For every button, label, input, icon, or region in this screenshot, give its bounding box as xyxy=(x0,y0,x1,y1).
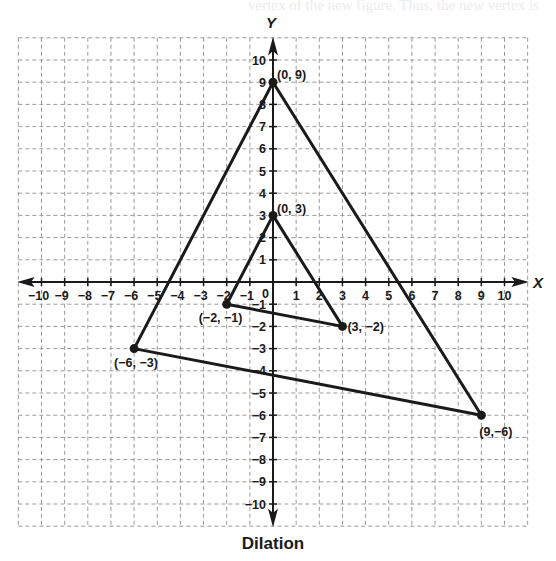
x-tick-label: 5 xyxy=(385,289,392,303)
x-tick-label: 3 xyxy=(339,289,346,303)
x-tick-label: 9 xyxy=(478,289,485,303)
y-tick-label: 5 xyxy=(259,165,266,179)
y-tick-label: −9 xyxy=(252,475,266,489)
x-tick-label: −3 xyxy=(193,289,207,303)
origin-label: 0 xyxy=(262,287,269,301)
y-tick-label: 4 xyxy=(259,187,266,201)
y-tick-label: −3 xyxy=(252,342,266,356)
vertex-label: (−6, −3) xyxy=(114,356,158,370)
y-tick-label: 1 xyxy=(259,253,266,267)
y-tick-label: 3 xyxy=(259,209,266,223)
y-tick-label: −8 xyxy=(252,453,266,467)
dilated-triangle: (0, 9)(−6, −3)(9,−6) xyxy=(114,68,512,439)
triangle-edges xyxy=(227,215,343,326)
y-tick-label: −7 xyxy=(252,431,266,445)
y-tick-label: 10 xyxy=(252,54,266,68)
x-tick-label: −6 xyxy=(124,289,138,303)
y-tick-label: 9 xyxy=(259,76,266,90)
y-tick-label: −10 xyxy=(245,498,266,512)
vertex-label: (9,−6) xyxy=(479,425,512,439)
x-tick-label: −4 xyxy=(170,289,184,303)
triangle-edges xyxy=(134,82,481,415)
x-tick-label: 10 xyxy=(498,289,512,303)
vertex-point xyxy=(222,300,231,309)
x-tick-label: −9 xyxy=(55,289,69,303)
figure-caption: Dilation xyxy=(242,534,304,553)
bleed-through-text: vertex of the new figure. Thus, the new … xyxy=(248,0,539,13)
vertex-point xyxy=(130,344,139,353)
x-tick-label: 8 xyxy=(455,289,462,303)
axes xyxy=(17,37,529,528)
y-tick-label: −5 xyxy=(252,387,266,401)
vertex-point xyxy=(477,411,486,420)
y-tick-label: −6 xyxy=(252,409,266,423)
x-axis-label: X xyxy=(532,274,544,291)
x-tick-label: 7 xyxy=(432,289,439,303)
y-tick-label: −2 xyxy=(252,320,266,334)
dilation-figure: vertex of the new figure. Thus, the new … xyxy=(0,0,556,561)
y-tick-label: 6 xyxy=(259,142,266,156)
x-tick-label: 1 xyxy=(293,289,300,303)
x-tick-label: −8 xyxy=(78,289,92,303)
y-tick-label: 7 xyxy=(259,120,266,134)
vertex-label: (3, −2) xyxy=(347,320,383,334)
y-axis-label: Y xyxy=(266,14,278,31)
x-tick-label: −10 xyxy=(28,289,49,303)
vertex-label: (0, 9) xyxy=(277,68,306,82)
triangles: (0, 3)(−2, −1)(3, −2)(0, 9)(−6, −3)(9,−6… xyxy=(114,68,512,439)
vertex-point xyxy=(338,322,347,331)
vertex-label: (0, 3) xyxy=(277,202,306,216)
vertex-label: (−2, −1) xyxy=(199,311,243,325)
x-tick-label: 4 xyxy=(362,289,369,303)
x-tick-label: −7 xyxy=(101,289,115,303)
